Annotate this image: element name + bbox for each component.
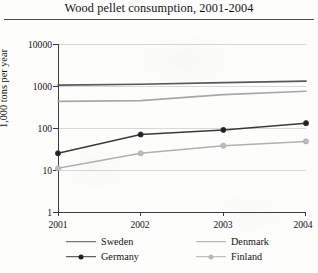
legend-line-icon [196,237,226,247]
y-tick-label: 1000 [33,81,52,92]
chart-title: Wood pellet consumption, 2001-2004 [0,1,318,16]
series-line-sweden [58,81,306,85]
series-line-denmark [58,91,306,101]
legend-line-marker-icon [196,252,226,262]
x-tick-label: 2002 [130,219,149,230]
title-divider [4,19,314,20]
data-point-finland-2002 [138,151,143,156]
data-point-germany-2001 [55,151,60,156]
data-point-finland-2003 [221,143,226,148]
legend-item-sweden[interactable]: Sweden [66,236,133,247]
chart-legend: Sweden Denmark Germany Finland [0,234,318,272]
y-axis-title: 1,000 tons per year [0,49,9,128]
legend-label: Sweden [101,236,133,247]
legend-line-marker-icon [66,252,96,262]
x-axis-line [58,212,306,213]
x-tick [140,212,141,216]
data-point-germany-2003 [221,127,226,132]
legend-label: Finland [231,251,262,262]
legend-label: Germany [101,251,139,262]
chart-figure: Wood pellet consumption, 2001-2004 1,000… [0,0,318,273]
legend-label: Denmark [231,236,269,247]
x-tick [223,212,224,216]
x-tick-label: 2001 [48,219,67,230]
legend-item-finland[interactable]: Finland [196,251,262,262]
data-point-germany-2002 [138,132,143,137]
series-layer [58,44,306,212]
data-point-finland-2004 [303,139,308,144]
y-tick-label: 100 [38,123,52,134]
legend-item-germany[interactable]: Germany [66,251,139,262]
y-tick-label: 1 [47,207,52,218]
legend-line-icon [66,237,96,247]
x-tick-label: 2004 [293,219,312,230]
data-point-finland-2001 [55,166,60,171]
x-tick [58,212,59,216]
legend-item-denmark[interactable]: Denmark [196,236,269,247]
x-tick [305,212,306,216]
y-tick-label: 10 [42,165,52,176]
data-point-germany-2004 [303,121,308,126]
x-tick-label: 2003 [213,219,232,230]
y-tick-label: 10000 [28,39,52,50]
